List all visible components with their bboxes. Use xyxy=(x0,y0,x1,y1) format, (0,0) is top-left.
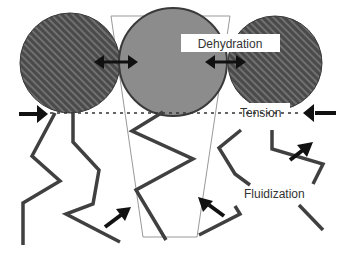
fluidization-label: Fluidization xyxy=(244,187,305,201)
acyl-chains xyxy=(23,112,323,245)
chain-left-1 xyxy=(23,113,60,245)
diagram-canvas: Dehydration Tension Fluidiz xyxy=(0,0,346,256)
chain-right-4 xyxy=(299,205,323,230)
chain-right-2 xyxy=(272,130,323,184)
tension-arrow-right xyxy=(303,104,336,122)
chain-right-1 xyxy=(219,130,250,185)
dehydration-label: Dehydration xyxy=(198,37,263,51)
tension-arrow-left xyxy=(19,105,48,123)
membrane-diagram: Dehydration Tension Fluidiz xyxy=(0,0,346,256)
tension-label: Tension xyxy=(240,106,281,120)
